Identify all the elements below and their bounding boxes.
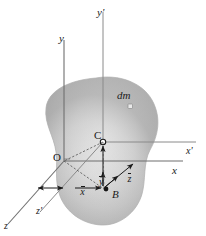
- mechanics-diagram-svg: [0, 0, 206, 236]
- reference-point-label: B: [112, 189, 119, 200]
- axis-label-y-prime: y': [97, 7, 104, 18]
- mass-element-marker: [128, 104, 133, 109]
- rigid-body-shape: [46, 77, 158, 225]
- dimension-label-z-bar: z: [127, 174, 131, 184]
- axis-label-x: x: [172, 165, 177, 176]
- dimension-label-y-bar: y: [99, 177, 103, 187]
- mass-center-label: C: [94, 130, 101, 141]
- reference-point-marker: [104, 187, 109, 192]
- dimension-label-x-bar: x: [80, 187, 84, 197]
- axis-label-y: y: [59, 33, 64, 44]
- axis-label-x-prime: x': [186, 146, 193, 156]
- figure-canvas: y' y dm C x' O x y z x B z' z: [0, 0, 206, 236]
- mass-element-label: dm: [117, 90, 130, 101]
- axis-label-z-prime: z': [36, 206, 42, 216]
- axis-label-z: z: [4, 221, 8, 231]
- origin-label: O: [53, 152, 61, 163]
